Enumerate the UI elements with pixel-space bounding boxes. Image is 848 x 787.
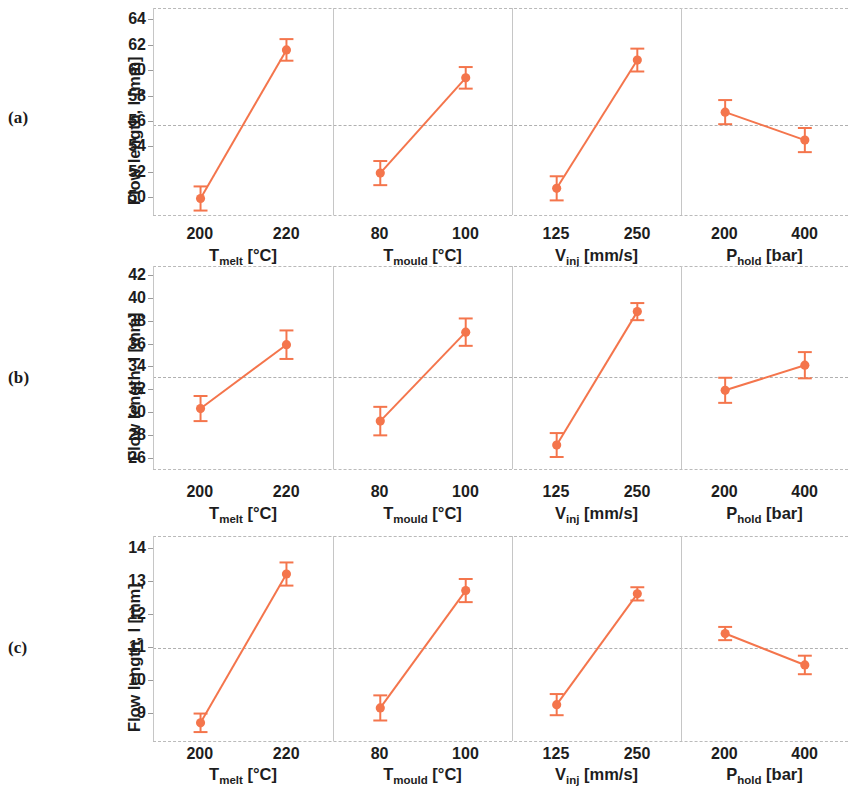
- series-plot: [154, 536, 333, 741]
- x-tick-label: 400: [791, 745, 818, 763]
- x-tick-label: 200: [711, 745, 738, 763]
- panel-2: [333, 536, 512, 741]
- data-point-marker: [376, 703, 385, 712]
- x-tick-label: 80: [371, 745, 389, 763]
- series-plot: [513, 536, 681, 741]
- x-axis-label: Tmelt [°C]: [209, 765, 277, 786]
- data-point-marker: [633, 589, 642, 598]
- axis-label-subscript: mould: [393, 774, 428, 786]
- panel-3: [512, 536, 681, 741]
- y-tick-label: 10: [0, 672, 146, 688]
- series-line: [201, 574, 287, 723]
- y-tick-label: 9: [0, 705, 146, 721]
- x-tick-label: 125: [543, 745, 570, 763]
- x-axis-label: Phold [bar]: [726, 765, 803, 786]
- axis-label-subscript: melt: [219, 774, 243, 786]
- data-point-group: [373, 695, 387, 720]
- series-line: [380, 591, 465, 708]
- data-point-marker: [461, 586, 470, 595]
- x-tick-label: 250: [624, 745, 651, 763]
- data-point-marker: [552, 700, 561, 709]
- x-axis-label: Tmould [°C]: [383, 765, 462, 786]
- y-tick-label: 12: [0, 606, 146, 622]
- plot-frame-bottom: [153, 741, 848, 742]
- panel-4: [681, 536, 848, 741]
- axis-label-subscript: inj: [566, 774, 579, 786]
- panel-1: [153, 536, 333, 741]
- series-line: [557, 594, 638, 705]
- y-tick-label: 11: [0, 639, 146, 655]
- series-plot: [682, 536, 848, 741]
- x-tick-label: 220: [273, 745, 300, 763]
- x-tick-label: 200: [186, 745, 213, 763]
- x-axis-label: Vinj [mm/s]: [555, 765, 638, 786]
- data-point-marker: [721, 629, 730, 638]
- data-point-group: [630, 587, 644, 600]
- y-tick-label: 13: [0, 573, 146, 589]
- data-point-marker: [196, 718, 205, 727]
- chart-row-3: (c)Flow length, l [mm]91011121314200220T…: [0, 0, 848, 787]
- figure-root: (a)Flow length, l [mm]505254565860626420…: [0, 0, 848, 787]
- series-plot: [334, 536, 512, 741]
- y-tick-label: 14: [0, 540, 146, 556]
- axis-label-subscript: hold: [737, 774, 761, 786]
- data-point-marker: [800, 660, 809, 669]
- series-line: [725, 634, 805, 665]
- data-point-group: [798, 656, 812, 675]
- data-point-marker: [282, 569, 291, 578]
- data-point-group: [718, 627, 732, 640]
- x-tick-label: 100: [452, 745, 479, 763]
